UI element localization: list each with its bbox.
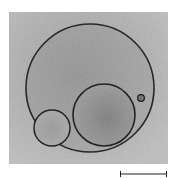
scale-bar (0, 0, 179, 178)
micrograph-figure (0, 0, 179, 178)
